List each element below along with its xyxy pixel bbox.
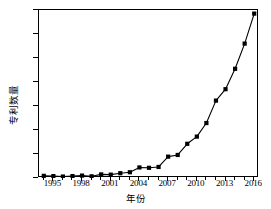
- data-point-marker: [223, 87, 227, 91]
- x-tick-label: 2004: [130, 179, 147, 188]
- data-point-marker: [243, 42, 247, 46]
- x-tick-label: 2010: [187, 179, 204, 188]
- data-point-marker: [118, 171, 122, 175]
- x-tick-mark-minor: [234, 177, 235, 180]
- series-line: [44, 14, 254, 177]
- x-tick-mark-minor: [119, 177, 120, 180]
- x-tick-mark-minor: [62, 177, 63, 180]
- x-tick-mark-minor: [91, 177, 92, 180]
- x-tick-mark-minor: [205, 177, 206, 180]
- x-tick-label: 2001: [101, 179, 118, 188]
- data-point-marker: [252, 12, 256, 16]
- x-tick-label: 2016: [245, 179, 262, 188]
- y-tick-mark: [33, 177, 38, 178]
- x-tick-label: 2013: [216, 179, 233, 188]
- data-point-marker: [166, 155, 170, 159]
- plot-area: [38, 9, 258, 177]
- data-point-marker: [128, 170, 132, 174]
- data-point-marker: [147, 166, 151, 170]
- data-point-marker: [195, 135, 199, 139]
- data-point-marker: [176, 153, 180, 157]
- x-tick-mark-minor: [148, 177, 149, 180]
- x-tick-label: 1995: [44, 179, 61, 188]
- x-tick-mark-minor: [177, 177, 178, 180]
- data-point-marker: [204, 121, 208, 125]
- series-markers: [42, 12, 257, 179]
- data-point-marker: [137, 165, 141, 169]
- data-point-marker: [156, 165, 160, 169]
- data-point-marker: [214, 99, 218, 103]
- patent-count-line-chart: 专利数量 0200400600800100012001400 199519982…: [0, 0, 271, 209]
- x-tick-label: 1998: [72, 179, 89, 188]
- data-point-marker: [99, 172, 103, 176]
- data-series-svg: [39, 10, 259, 178]
- data-point-marker: [185, 142, 189, 146]
- x-tick-label: 2007: [159, 179, 176, 188]
- data-point-marker: [233, 67, 237, 71]
- x-axis-label: 年份: [0, 191, 271, 205]
- y-axis-label: 专利数量: [6, 70, 20, 140]
